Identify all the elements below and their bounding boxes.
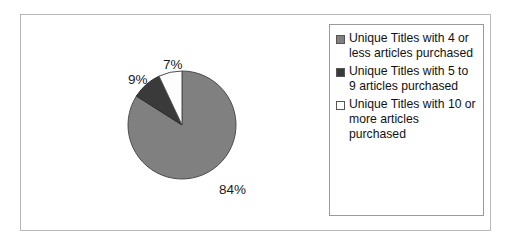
legend-item-label: Unique Titles with 4 or less articles pu… <box>349 31 478 60</box>
pie-label-10-or-more: 7% <box>163 58 183 72</box>
legend-item-10-or-more[interactable]: Unique Titles with 10 or more articles p… <box>336 97 478 141</box>
pie-label-5-to-9: 9% <box>128 73 148 87</box>
legend-swatch-icon <box>336 101 345 110</box>
legend: Unique Titles with 4 or less articles pu… <box>329 24 484 216</box>
legend-item-label: Unique Titles with 5 to 9 articles purch… <box>349 64 478 93</box>
legend-swatch-icon <box>336 35 345 44</box>
legend-item-4-or-less[interactable]: Unique Titles with 4 or less articles pu… <box>336 31 478 60</box>
legend-swatch-icon <box>336 68 345 77</box>
pie-chart-figure: 84% 9% 7% Unique Titles with 4 or less a… <box>0 0 512 247</box>
legend-item-label: Unique Titles with 10 or more articles p… <box>349 97 478 141</box>
chart-frame: 84% 9% 7% Unique Titles with 4 or less a… <box>20 14 491 231</box>
legend-item-5-to-9[interactable]: Unique Titles with 5 to 9 articles purch… <box>336 64 478 93</box>
pie-label-4-or-less: 84% <box>219 183 246 197</box>
plot-area: 84% 9% 7% <box>21 15 326 230</box>
